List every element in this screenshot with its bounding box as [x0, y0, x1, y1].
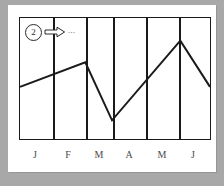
chart-card: 2 ... J F M A M J [8, 5, 216, 172]
block-arrow-right-icon [44, 26, 66, 38]
screenshot-stage: 2 ... J F M A M J [0, 0, 224, 186]
x-tick-label-4: M [158, 145, 167, 165]
x-tick-label-3: A [125, 145, 132, 165]
x-tick-label-1: F [65, 145, 71, 165]
x-tick-label-5: J [191, 145, 195, 165]
chart-plot-area: 2 ... [19, 17, 211, 140]
step-number-badge: 2 [25, 24, 42, 41]
step-annotation: 2 ... [25, 23, 76, 41]
x-tick-label-2: M [95, 145, 104, 165]
x-axis-tick-labels: J F M A M J [19, 145, 211, 165]
annotation-ellipsis: ... [68, 27, 76, 37]
x-tick-label-0: J [33, 145, 37, 165]
